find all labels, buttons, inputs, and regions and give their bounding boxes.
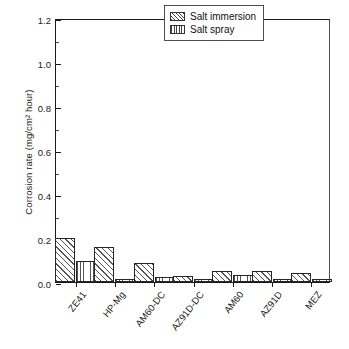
x-tick-mark [311,282,312,287]
y-tick-label: 1.2 [38,15,51,26]
bar-hp-mg-salt-immersion [94,247,114,282]
y-axis-title: Corrosion rate (mg/cm² hour) [23,20,34,284]
bar-az91d-salt-spray [273,279,293,282]
x-tick-mark [154,282,155,287]
x-tick-label: MEZ [303,289,324,312]
legend-item-salt-immersion: Salt immersion [170,10,256,23]
legend: Salt immersion Salt spray [164,5,264,41]
bar-hp-mg-salt-spray [115,279,135,282]
x-tick-label: AZ91D-DC [169,289,206,332]
corrosion-rate-bar-chart: Corrosion rate (mg/cm² hour) 0.00.20.40.… [0,0,349,349]
plot-area: Corrosion rate (mg/cm² hour) 0.00.20.40.… [55,19,330,283]
bar-ze41-salt-spray [76,261,96,282]
y-minor-tick-mark [56,86,59,87]
legend-swatch-salt-immersion [170,12,185,21]
bar-am60-dc-salt-immersion [134,263,154,282]
y-tick-label: 0.4 [38,191,51,202]
y-tick-mark [56,284,61,285]
bar-am60-salt-immersion [212,271,232,282]
x-tick-label: HP-Mg [101,289,128,319]
legend-swatch-salt-spray [170,25,185,34]
x-tick-label: AM60 [221,289,245,315]
y-tick-label: 0.2 [38,235,51,246]
x-tick-mark [233,282,234,287]
y-tick-label: 1.0 [38,59,51,70]
legend-label-salt-spray: Salt spray [190,24,234,35]
bar-mez-salt-spray [312,279,332,282]
y-tick-mark [56,108,61,109]
x-tick-label: AM60-DC [133,289,167,329]
y-tick-mark [56,64,61,65]
y-tick-mark [56,20,61,21]
bar-az91d-dc-salt-immersion [173,276,193,282]
y-minor-tick-mark [56,218,59,219]
legend-label-salt-immersion: Salt immersion [190,11,256,22]
x-tick-mark [272,282,273,287]
bar-az91d-dc-salt-spray [194,279,214,282]
bar-am60-salt-spray [233,275,253,282]
y-tick-label: 0.8 [38,103,51,114]
y-tick-label: 0.6 [38,147,51,158]
bar-am60-dc-salt-spray [155,277,175,283]
y-tick-label: 0.0 [38,279,51,290]
x-tick-label: AZ91D [258,289,285,319]
legend-item-salt-spray: Salt spray [170,23,256,36]
x-tick-mark [76,282,77,287]
bar-mez-salt-immersion [291,273,311,282]
x-tick-mark [194,282,195,287]
y-minor-tick-mark [56,130,59,131]
y-tick-mark [56,196,61,197]
bar-ze41-salt-immersion [55,238,75,282]
x-tick-mark [115,282,116,287]
y-minor-tick-mark [56,174,59,175]
y-minor-tick-mark [56,42,59,43]
bar-az91d-salt-immersion [252,271,272,282]
x-tick-label: ZE41 [66,289,89,314]
y-tick-mark [56,152,61,153]
